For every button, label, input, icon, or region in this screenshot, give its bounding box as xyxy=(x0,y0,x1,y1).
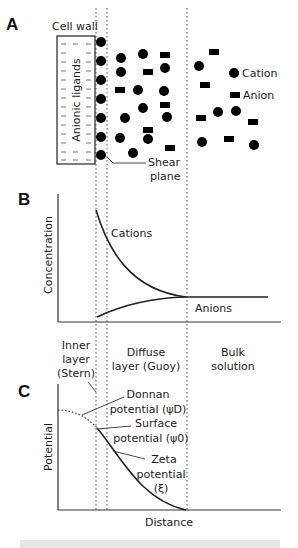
stern-layer-cations xyxy=(96,37,106,160)
bulk-solution-label-line2: solution xyxy=(211,360,255,373)
cation-legend-label: Cation xyxy=(242,67,278,80)
donnan-label-line2: potential (ψD) xyxy=(110,403,187,416)
shear-plane-label-line1: Shear xyxy=(148,156,180,169)
inner-layer-label-line3: (Stern) xyxy=(57,367,95,380)
surface-label-line2: potential (ψ0) xyxy=(113,432,188,445)
panel-a-label: A xyxy=(6,15,18,34)
panel-a: A Cell wall xyxy=(6,15,278,183)
cations-curve xyxy=(96,210,186,297)
panel-c: C Potential Distance Donnan potential (ψ… xyxy=(18,382,281,529)
inner-layer-label-line1: Inner xyxy=(62,339,91,352)
footer-bar xyxy=(20,540,280,548)
shear-plane-label-line2: plane xyxy=(150,170,181,183)
b-y-axis-label: Concentration xyxy=(42,216,55,294)
surface-label-line1: Surface xyxy=(135,417,177,430)
inner-layer-leader xyxy=(88,382,96,392)
anion-legend-icon xyxy=(230,92,240,98)
donnan-potential-curve xyxy=(58,410,97,428)
panel-b: B Concentration Cations Anions xyxy=(18,190,281,322)
zeta-label-line3: (ξ) xyxy=(154,482,169,495)
diffuse-layer-label-line2: layer (Guoy) xyxy=(112,360,180,373)
region-labels: Inner layer (Stern) Diffuse layer (Guoy)… xyxy=(57,339,255,392)
zeta-label-line2: potential xyxy=(137,468,186,481)
electrical-double-layer-figure: A Cell wall xyxy=(0,0,298,548)
panel-b-label: B xyxy=(18,190,30,209)
anion-legend-label: Anion xyxy=(243,89,274,102)
anions-curve xyxy=(97,297,268,317)
cation-legend-icon xyxy=(229,68,239,78)
inner-layer-label-line2: layer xyxy=(62,353,90,366)
c-x-axis-label: Distance xyxy=(145,516,193,529)
panel-c-label: C xyxy=(18,382,30,401)
donnan-label-line1: Donnan xyxy=(127,388,170,401)
cations-series-label: Cations xyxy=(111,227,152,240)
surface-leader xyxy=(97,426,131,429)
legend: Cation Anion xyxy=(229,67,278,102)
anionic-ligands-label: Anionic ligands xyxy=(70,58,83,142)
shear-plane-leader xyxy=(107,157,146,163)
cell-wall-label: Cell wall xyxy=(52,20,98,33)
bulk-solution-label-line1: Bulk xyxy=(221,346,246,359)
anions-series-label: Anions xyxy=(195,302,232,315)
diffuse-layer-label-line1: Diffuse xyxy=(127,346,166,359)
zeta-label-line1: Zeta xyxy=(151,453,176,466)
c-y-axis-label: Potential xyxy=(42,423,55,471)
